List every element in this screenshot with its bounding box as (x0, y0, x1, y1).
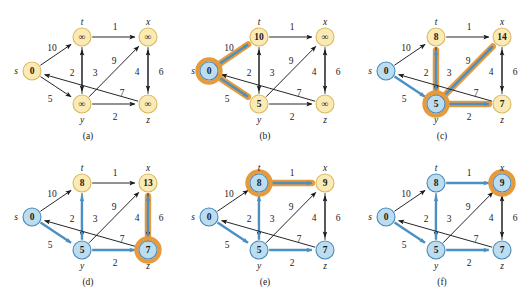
node-y: ∞y (73, 95, 91, 125)
edge-weight-t-y: 2 (424, 214, 429, 224)
edge-weight-x-z: 4 (312, 213, 317, 223)
node-value-s: 0 (207, 212, 212, 222)
edge-weight-s-y: 5 (48, 240, 53, 250)
node-name-t: t (258, 17, 261, 27)
edge-weight-z-x: 6 (159, 67, 164, 77)
edge-weight-x-z: 4 (489, 213, 494, 223)
node-value-y: 5 (434, 245, 439, 255)
node-name-s: s (368, 66, 372, 76)
node-value-s: 0 (384, 212, 389, 222)
node-s: 0s (368, 208, 395, 226)
panel-d: 105123946270s8t13x5y7z(d) (0, 146, 177, 292)
node-name-t: t (435, 17, 438, 27)
node-name-s: s (14, 66, 18, 76)
node-name-x: x (322, 163, 328, 173)
node-z: 7z (493, 241, 511, 271)
edge-weight-x-z: 4 (489, 67, 494, 77)
node-name-y: y (433, 115, 439, 125)
edge-weight-z-s: 7 (120, 88, 125, 98)
edge-weight-t-x: 1 (113, 168, 118, 178)
edge-weight-s-y: 5 (225, 94, 230, 104)
node-name-z: z (499, 115, 504, 125)
edge-weight-y-x: 9 (112, 56, 117, 66)
edge-weight-y-x: 9 (466, 202, 471, 212)
node-s: 0s (14, 62, 41, 80)
node-x: 9x (316, 163, 334, 193)
node-name-x: x (499, 163, 505, 173)
edge-weight-s-t: 10 (401, 43, 411, 53)
edge-weight-t-x: 1 (467, 168, 472, 178)
node-value-s: 0 (207, 66, 212, 76)
edge-weight-s-t: 10 (47, 189, 57, 199)
edge-weight-x-z: 4 (312, 67, 317, 77)
node-value-t: 8 (434, 32, 439, 42)
node-value-y: 5 (80, 245, 85, 255)
dijkstra-figure: 105123946270s∞t∞x∞y∞z(a)105123946270s10t… (0, 0, 531, 292)
edge-weight-t-x: 1 (467, 22, 472, 32)
edge-s-y (218, 223, 248, 243)
edge-weight-z-s: 7 (120, 234, 125, 244)
edge-weight-t-y: 2 (70, 214, 75, 224)
panel-caption-d: (d) (82, 277, 93, 288)
node-value-s: 0 (384, 66, 389, 76)
edge-weight-x-z: 4 (135, 67, 140, 77)
edge-s-y (395, 223, 425, 243)
edge-weight-s-y: 5 (48, 94, 53, 104)
node-name-y: y (256, 115, 262, 125)
node-y: 5y (73, 241, 91, 271)
node-t: ∞t (73, 17, 91, 47)
node-name-z: z (145, 261, 150, 271)
node-z: 7z (136, 238, 159, 270)
edge-weight-y-t: 3 (93, 214, 98, 224)
edge-weight-y-z: 2 (467, 112, 472, 122)
edge-weight-z-s: 7 (474, 88, 479, 98)
edge-weight-y-x: 9 (112, 202, 117, 212)
node-value-x: 14 (497, 32, 507, 42)
edge-weight-y-t: 3 (270, 214, 275, 224)
node-s: 0s (368, 62, 395, 80)
node-value-t: 10 (254, 32, 264, 42)
node-z: ∞z (139, 95, 157, 125)
edge-weight-z-x: 6 (336, 67, 341, 77)
edge-weight-t-x: 1 (290, 22, 295, 32)
node-x: 13x (139, 163, 157, 193)
node-value-z: ∞ (322, 99, 329, 109)
edge-weight-x-z: 4 (135, 213, 140, 223)
edge-weight-t-x: 1 (113, 22, 118, 32)
node-name-y: y (79, 261, 85, 271)
node-x: ∞x (316, 17, 334, 47)
node-name-z: z (322, 261, 327, 271)
node-value-t: 8 (434, 178, 439, 188)
node-z: 7z (316, 241, 334, 271)
edge-weight-z-x: 6 (513, 67, 518, 77)
edge-s-y (41, 223, 71, 243)
edge-weight-s-y: 5 (402, 94, 407, 104)
node-value-x: ∞ (145, 32, 152, 42)
node-t: 10t (250, 17, 268, 47)
node-y: 5y (250, 241, 268, 271)
panel-caption-c: (c) (437, 131, 448, 142)
node-name-t: t (81, 17, 84, 27)
edge-weight-s-t: 10 (401, 189, 411, 199)
edge-weight-y-z: 2 (113, 258, 118, 268)
edge-weight-t-x: 1 (290, 168, 295, 178)
edge-weight-y-z: 2 (113, 112, 118, 122)
edge-weight-y-t: 3 (270, 68, 275, 78)
node-name-x: x (322, 17, 328, 27)
node-name-s: s (14, 212, 18, 222)
edge-weight-s-t: 10 (224, 43, 234, 53)
edge-weight-t-y: 2 (424, 68, 429, 78)
edge-weight-y-z: 2 (290, 258, 295, 268)
node-t: 8t (427, 163, 445, 193)
node-s: 0s (14, 208, 41, 226)
node-s: 0s (191, 59, 220, 82)
node-x: 9x (490, 163, 513, 195)
node-value-z: 7 (146, 245, 151, 255)
node-value-y: 5 (257, 245, 262, 255)
node-name-y: y (79, 115, 85, 125)
panel-b: 105123946270s10t∞x5y∞z(b) (177, 0, 354, 146)
edge-weight-s-y: 5 (402, 240, 407, 250)
node-name-z: z (322, 115, 327, 125)
edge-weight-s-t: 10 (47, 43, 57, 53)
panel-caption-e: (e) (260, 277, 271, 288)
